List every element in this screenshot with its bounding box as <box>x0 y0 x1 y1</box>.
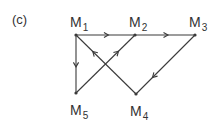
node-dot-m3 <box>193 33 196 36</box>
edge-m3-m4 <box>136 35 195 94</box>
node-label-m5: M5 <box>70 102 89 121</box>
node-dot-m2 <box>133 33 136 36</box>
node-label-m3: M3 <box>189 14 208 33</box>
figure-label: (c) <box>12 12 27 27</box>
directed-graph: (c) M1M2M3M4M5 <box>0 0 224 122</box>
node-label-m2: M2 <box>129 14 148 33</box>
node-dot-m4 <box>134 92 137 95</box>
edges <box>73 32 195 94</box>
node-dot-m1 <box>74 33 77 36</box>
nodes: M1M2M3M4M5 <box>70 14 208 122</box>
node-label-m4: M4 <box>130 103 149 122</box>
edge-m4-m1 <box>76 35 136 94</box>
node-label-m1: M1 <box>70 14 89 33</box>
node-dot-m5 <box>74 91 77 94</box>
